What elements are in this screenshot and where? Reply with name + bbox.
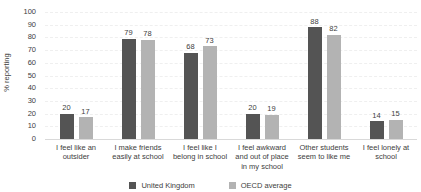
bar-column: 15 <box>389 12 403 139</box>
x-axis-category-label: I feel awkward and out of place in my sc… <box>231 143 293 171</box>
bar-group: 8882 <box>308 12 341 139</box>
x-axis-category-label: I feel lonely at school <box>355 143 417 171</box>
bar-chart: % reporting 0102030405060708090100 20177… <box>0 0 421 192</box>
bar-group: 6873 <box>184 12 217 139</box>
bar <box>203 46 217 139</box>
x-axis-category-label: Other students seem to like me <box>293 143 355 171</box>
bar-column: 73 <box>203 12 217 139</box>
legend-item: OECD average <box>229 182 292 190</box>
y-tick-label: 30 <box>28 97 36 105</box>
bar-value-label: 20 <box>248 104 256 112</box>
x-axis-labels: I feel like an outsiderI make friends ea… <box>45 143 417 171</box>
y-tick-label: 90 <box>28 21 36 29</box>
x-axis-category-label: I feel like an outsider <box>45 143 107 171</box>
x-axis-category-label: I make friends easily at school <box>107 143 169 171</box>
bar <box>122 39 136 139</box>
bar-value-label: 82 <box>329 25 337 33</box>
bar-group: 1415 <box>370 12 403 139</box>
bar-value-label: 15 <box>391 110 399 118</box>
bar <box>308 27 322 139</box>
bar-group: 2019 <box>246 12 279 139</box>
legend-label: United Kingdom <box>141 182 194 190</box>
bar-column: 79 <box>122 12 136 139</box>
bar <box>370 121 384 139</box>
bar-column: 19 <box>265 12 279 139</box>
bar <box>79 117 93 139</box>
y-tick-label: 60 <box>28 59 36 67</box>
bar-column: 82 <box>327 12 341 139</box>
legend-swatch-icon <box>129 182 136 189</box>
legend-item: United Kingdom <box>129 182 194 190</box>
bar <box>141 40 155 139</box>
bar <box>327 35 341 139</box>
bar-column: 20 <box>60 12 74 139</box>
plot-area: 201779786873201988821415 <box>45 12 417 140</box>
legend-swatch-icon <box>229 182 236 189</box>
y-axis-ticks: 0102030405060708090100 <box>16 12 40 139</box>
y-tick-label: 40 <box>28 84 36 92</box>
y-tick-label: 0 <box>32 135 36 143</box>
bar-value-label: 78 <box>143 30 151 38</box>
y-tick-label: 20 <box>28 110 36 118</box>
bar-value-label: 68 <box>186 43 194 51</box>
bar-value-label: 17 <box>81 108 89 116</box>
y-tick-label: 80 <box>28 34 36 42</box>
bar-column: 78 <box>141 12 155 139</box>
bar-group: 2017 <box>60 12 93 139</box>
bar-column: 88 <box>308 12 322 139</box>
bar <box>60 114 74 139</box>
bar-column: 68 <box>184 12 198 139</box>
y-tick-label: 50 <box>28 72 36 80</box>
bar <box>246 114 260 139</box>
bar-value-label: 19 <box>267 105 275 113</box>
bar <box>389 120 403 139</box>
bar-value-label: 88 <box>310 18 318 26</box>
y-axis-title: % reporting <box>2 43 11 103</box>
y-tick-label: 100 <box>23 8 36 16</box>
bar-groups: 201779786873201988821415 <box>45 12 417 139</box>
legend: United KingdomOECD average <box>0 182 421 190</box>
bar-group: 7978 <box>122 12 155 139</box>
bar-column: 14 <box>370 12 384 139</box>
legend-label: OECD average <box>241 182 292 190</box>
bar <box>265 115 279 139</box>
bar-column: 17 <box>79 12 93 139</box>
x-axis-category-label: I feel like I belong in school <box>169 143 231 171</box>
bar-column: 20 <box>246 12 260 139</box>
bar <box>184 53 198 139</box>
bar-value-label: 79 <box>124 29 132 37</box>
bar-value-label: 14 <box>372 112 380 120</box>
y-tick-label: 70 <box>28 46 36 54</box>
y-tick-label: 10 <box>28 123 36 131</box>
bar-value-label: 73 <box>205 37 213 45</box>
bar-value-label: 20 <box>62 104 70 112</box>
